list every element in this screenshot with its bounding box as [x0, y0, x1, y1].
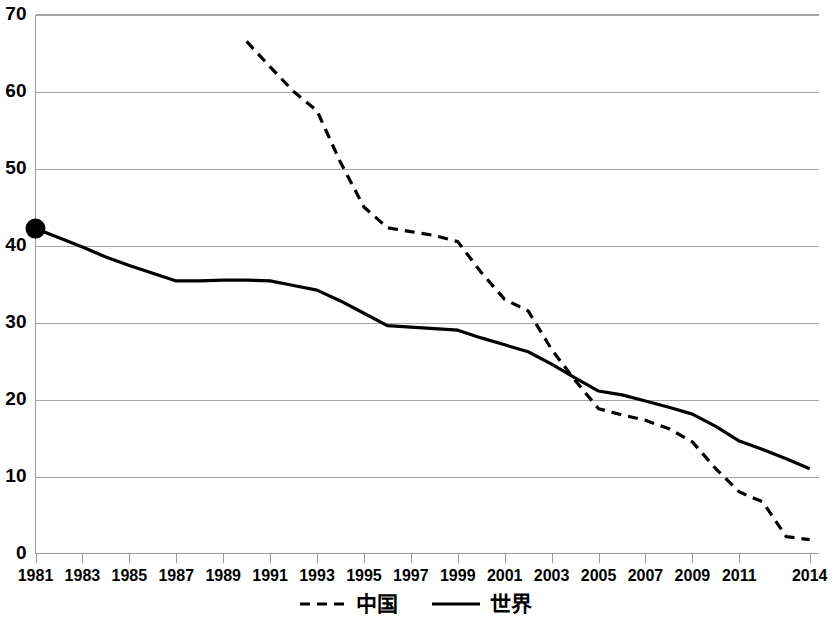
series-line-world — [36, 229, 810, 469]
marker-start-point — [26, 219, 46, 239]
x-tick-label-1995: 1995 — [346, 567, 382, 584]
x-tick-label-1991: 1991 — [252, 567, 288, 584]
legend-label-china: 中国 — [356, 592, 398, 615]
tick-marks — [37, 554, 811, 563]
y-tick-label-30: 30 — [5, 311, 26, 332]
y-tick-label-70: 70 — [5, 3, 26, 24]
y-axis-tick-labels: 010203040506070 — [5, 3, 26, 563]
series-line-china — [247, 41, 810, 539]
y-tick-label-50: 50 — [5, 157, 26, 178]
x-tick-label-2005: 2005 — [581, 567, 617, 584]
chart-legend: 中国世界 — [300, 592, 532, 615]
y-tick-label-0: 0 — [16, 542, 27, 563]
y-tick-label-40: 40 — [5, 234, 26, 255]
data-series — [36, 41, 810, 539]
x-tick-label-1981: 1981 — [18, 567, 54, 584]
y-tick-label-20: 20 — [5, 388, 26, 409]
chart-canvas: 010203040506070 198119831985198719891991… — [0, 0, 833, 624]
x-axis-tick-labels: 1981198319851987198919911993199519971999… — [18, 567, 828, 584]
x-tick-label-2001: 2001 — [487, 567, 523, 584]
x-tick-label-1997: 1997 — [393, 567, 429, 584]
line-chart: 010203040506070 198119831985198719891991… — [0, 0, 833, 624]
x-tick-label-1985: 1985 — [112, 567, 148, 584]
x-tick-label-2011: 2011 — [722, 567, 757, 584]
x-tick-label-2014: 2014 — [792, 567, 828, 584]
x-tick-label-1987: 1987 — [158, 567, 194, 584]
x-tick-label-2003: 2003 — [534, 567, 570, 584]
x-tick-label-2009: 2009 — [675, 567, 711, 584]
data-point-markers — [26, 219, 46, 239]
x-tick-label-2007: 2007 — [628, 567, 664, 584]
x-tick-label-1999: 1999 — [440, 567, 476, 584]
x-tick-label-1989: 1989 — [205, 567, 241, 584]
x-tick-label-1983: 1983 — [65, 567, 101, 584]
axes — [36, 15, 819, 554]
gridlines — [36, 16, 819, 478]
y-tick-label-10: 10 — [5, 465, 26, 486]
y-tick-label-60: 60 — [5, 80, 26, 101]
x-tick-label-1993: 1993 — [299, 567, 335, 584]
legend-label-world: 世界 — [490, 592, 532, 615]
